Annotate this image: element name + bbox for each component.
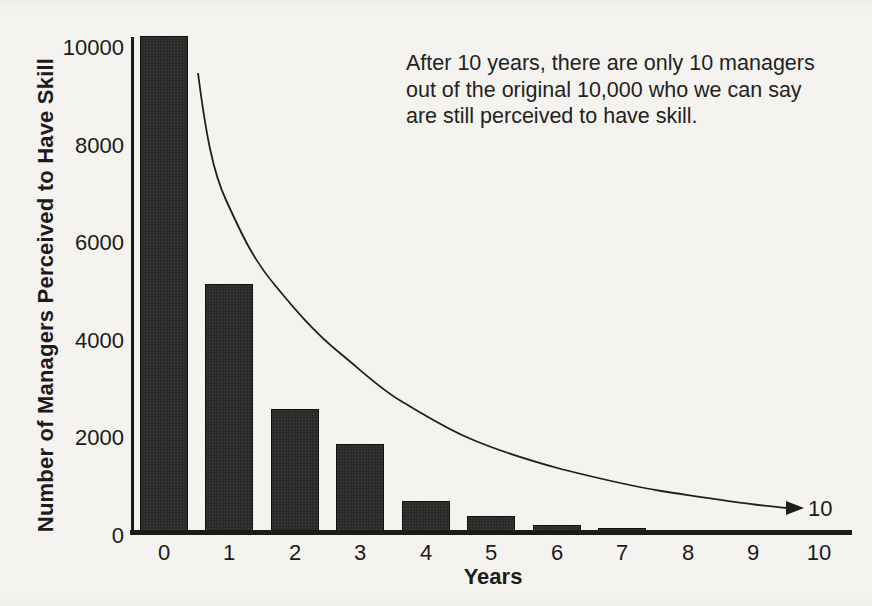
decay-curve-path xyxy=(198,73,788,508)
x-axis-title: Years xyxy=(464,564,523,590)
decay-curve xyxy=(0,0,872,606)
curve-arrowhead-icon xyxy=(786,501,804,515)
figure-canvas: Number of Managers Perceived to Have Ski… xyxy=(0,0,872,606)
curve-end-label: 10 xyxy=(808,496,832,522)
